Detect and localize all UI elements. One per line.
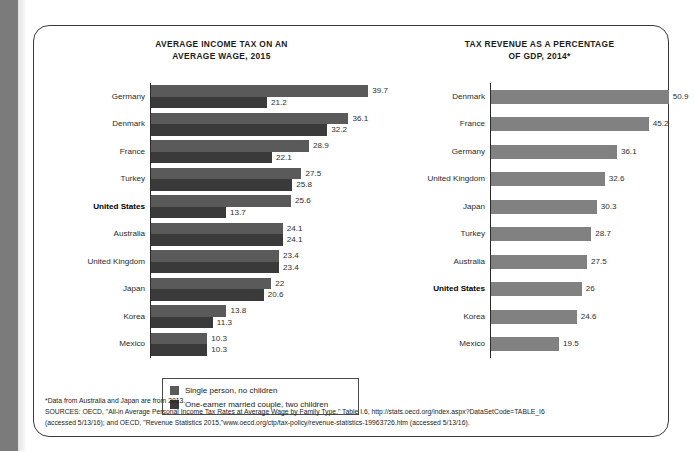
bar bbox=[151, 124, 327, 136]
category-label: Denmark bbox=[452, 93, 485, 101]
footnote-line: (accessed 5/13/16); and OECD, "Revenue S… bbox=[45, 417, 659, 428]
bar bbox=[491, 172, 605, 186]
legend-label: Single person, no children bbox=[185, 387, 278, 395]
bar-group: Australia27.5 bbox=[491, 248, 690, 276]
bar bbox=[151, 152, 272, 164]
bar-value-label: 20.6 bbox=[268, 291, 284, 299]
bar-value-label: 24.1 bbox=[287, 225, 303, 233]
bar-value-label: 30.3 bbox=[601, 203, 617, 211]
bar bbox=[151, 195, 291, 207]
bar-value-label: 13.8 bbox=[230, 307, 246, 315]
bar-group: United Kingdom23.423.4 bbox=[151, 248, 400, 276]
category-label: Korea bbox=[463, 313, 485, 321]
bar bbox=[491, 227, 591, 241]
bar bbox=[151, 85, 368, 97]
bar-value-label: 24.6 bbox=[581, 313, 597, 321]
page-edge-shadow bbox=[18, 0, 26, 451]
bar-group: Australia24.124.1 bbox=[151, 221, 400, 249]
category-label: Australia bbox=[114, 230, 146, 238]
plot-area-tax-revenue: Denmark50.9France45.2Germany36.1United K… bbox=[490, 83, 690, 358]
bar-value-label: 45.2 bbox=[653, 120, 669, 128]
bar-value-label: 28.7 bbox=[595, 230, 611, 238]
bar-value-label: 28.9 bbox=[313, 142, 329, 150]
bar-group: Korea24.6 bbox=[491, 303, 690, 331]
category-label: Mexico bbox=[119, 340, 145, 348]
category-label: Turkey bbox=[461, 230, 485, 238]
footnote-line: *Data from Australia and Japan are from … bbox=[45, 395, 659, 406]
bar bbox=[151, 168, 301, 180]
category-label: France bbox=[460, 120, 485, 128]
bar-value-label: 13.7 bbox=[230, 209, 246, 217]
footnote-line: SOURCES: OECD, "All-in Average Personal … bbox=[45, 406, 659, 417]
bar-value-label: 36.1 bbox=[621, 148, 637, 156]
bar-value-label: 27.5 bbox=[591, 258, 607, 266]
bar-group: France28.922.1 bbox=[151, 138, 400, 166]
bar-value-label: 23.4 bbox=[283, 264, 299, 272]
category-label: United States bbox=[93, 203, 145, 211]
bar-group: United States26 bbox=[491, 276, 690, 304]
bar bbox=[151, 234, 283, 246]
category-label: Denmark bbox=[112, 120, 145, 128]
bar bbox=[491, 145, 617, 159]
chart-title-tax-revenue: TAX REVENUE AS A PERCENTAGE OF GDP, 2014… bbox=[409, 26, 670, 62]
category-label: Australia bbox=[454, 258, 486, 266]
chart-title-line-2: AVERAGE WAGE, 2015 bbox=[34, 51, 409, 63]
bar-group: France45.2 bbox=[491, 111, 690, 139]
bar-group: Denmark36.132.2 bbox=[151, 111, 400, 139]
bar bbox=[151, 97, 267, 109]
bar bbox=[151, 113, 348, 125]
bar-group: Mexico19.5 bbox=[491, 331, 690, 359]
bar bbox=[151, 179, 292, 191]
bar bbox=[491, 255, 587, 269]
bar-value-label: 25.8 bbox=[296, 181, 312, 189]
bar-value-label: 21.2 bbox=[271, 99, 287, 107]
bar bbox=[151, 317, 213, 329]
bar bbox=[151, 140, 309, 152]
bar bbox=[151, 223, 283, 235]
category-label: Japan bbox=[463, 203, 485, 211]
bar-value-label: 39.7 bbox=[372, 87, 388, 95]
bar-group: United Kingdom32.6 bbox=[491, 166, 690, 194]
figure-container: AVERAGE INCOME TAX ON AN AVERAGE WAGE, 2… bbox=[33, 25, 669, 437]
bar-group: Turkey27.525.8 bbox=[151, 166, 400, 194]
category-label: Korea bbox=[123, 313, 145, 321]
bar-value-label: 36.1 bbox=[352, 115, 368, 123]
bar bbox=[151, 333, 207, 345]
bar-group: Germany39.721.2 bbox=[151, 83, 400, 111]
category-label: Germany bbox=[112, 93, 145, 101]
bar bbox=[491, 310, 577, 324]
bar bbox=[491, 282, 582, 296]
legend-swatch-icon bbox=[170, 386, 179, 395]
plot-area-income-tax: Germany39.721.2Denmark36.132.2France28.9… bbox=[150, 83, 400, 358]
bar bbox=[491, 117, 649, 131]
bar bbox=[151, 305, 226, 317]
category-label: Turkey bbox=[121, 175, 145, 183]
bar bbox=[151, 278, 271, 290]
bar-group: Turkey28.7 bbox=[491, 221, 690, 249]
category-label: Germany bbox=[452, 148, 485, 156]
bar bbox=[151, 289, 264, 301]
bar-value-label: 22.1 bbox=[276, 154, 292, 162]
footnotes-block: *Data from Australia and Japan are from … bbox=[45, 395, 659, 428]
bar-value-label: 50.9 bbox=[673, 93, 689, 101]
bar-value-label: 23.4 bbox=[283, 252, 299, 260]
chart-title-line-2: OF GDP, 2014* bbox=[409, 51, 670, 63]
bar-value-label: 32.6 bbox=[609, 175, 625, 183]
bar-group: Korea13.811.3 bbox=[151, 303, 400, 331]
category-label: France bbox=[120, 148, 145, 156]
chart-title-income-tax: AVERAGE INCOME TAX ON AN AVERAGE WAGE, 2… bbox=[34, 26, 409, 62]
bar bbox=[491, 337, 559, 351]
bar-value-label: 25.6 bbox=[295, 197, 311, 205]
figure-page: AVERAGE INCOME TAX ON AN AVERAGE WAGE, 2… bbox=[0, 0, 695, 451]
page-edge-strip bbox=[0, 0, 18, 451]
bar bbox=[151, 250, 279, 262]
bar-group: Germany36.1 bbox=[491, 138, 690, 166]
bar-group: Japan2220.6 bbox=[151, 276, 400, 304]
chart-title-line-1: AVERAGE INCOME TAX ON AN bbox=[155, 39, 287, 49]
bar-group: Japan30.3 bbox=[491, 193, 690, 221]
bar bbox=[151, 262, 279, 274]
bar-group: United States25.613.7 bbox=[151, 193, 400, 221]
category-label: United Kingdom bbox=[427, 175, 485, 183]
bar-value-label: 19.5 bbox=[563, 340, 579, 348]
category-label: United Kingdom bbox=[87, 258, 145, 266]
